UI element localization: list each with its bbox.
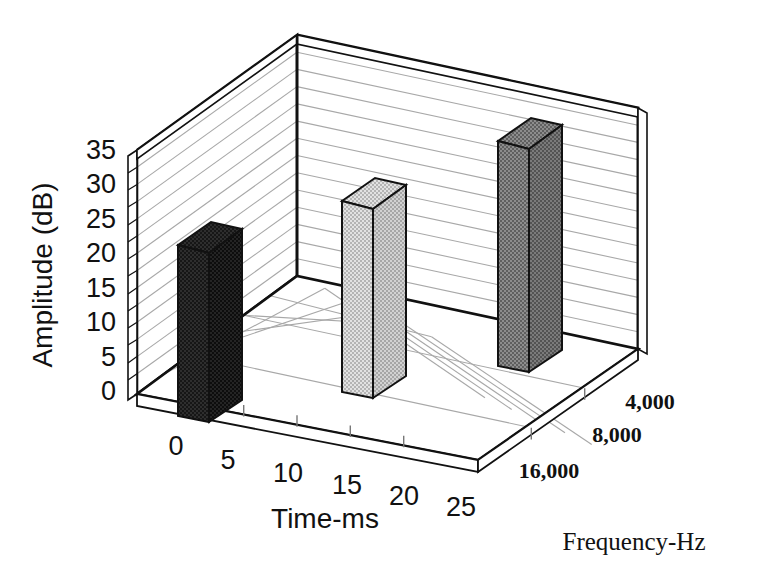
y-tick-15: 15 (86, 273, 116, 303)
y-tick-30: 30 (86, 169, 116, 199)
x-tick-25: 25 (446, 492, 476, 522)
bar-chart-3d: 35 30 25 20 15 10 5 0 Amplitude (dB) 0 5… (0, 0, 758, 588)
y-tick-0: 0 (101, 376, 116, 406)
x-axis-title: Time-ms (271, 503, 379, 534)
y-tick-25: 25 (86, 204, 116, 234)
x-tick-20: 20 (389, 481, 419, 511)
bar-4000hz[interactable] (498, 118, 562, 372)
z-tick-16000: 16,000 (519, 458, 580, 483)
y-axis-tick-labels: 35 30 25 20 15 10 5 0 (86, 135, 116, 406)
x-tick-0: 0 (168, 431, 183, 461)
x-tick-10: 10 (273, 458, 303, 488)
chart-page: 35 30 25 20 15 10 5 0 Amplitude (dB) 0 5… (0, 0, 758, 588)
z-tick-8000: 8,000 (592, 422, 642, 447)
bar-16000hz[interactable] (178, 222, 242, 422)
z-tick-4000: 4,000 (625, 389, 675, 414)
x-tick-5: 5 (220, 445, 235, 475)
y-tick-5: 5 (101, 342, 116, 372)
y-tick-35: 35 (86, 135, 116, 165)
x-tick-15: 15 (332, 470, 362, 500)
z-axis-title: Frequency-Hz (563, 528, 706, 555)
y-tick-20: 20 (86, 238, 116, 268)
bar-8000hz[interactable] (342, 178, 406, 398)
y-axis-title: Amplitude (dB) (27, 182, 58, 367)
y-tick-10: 10 (86, 307, 116, 337)
